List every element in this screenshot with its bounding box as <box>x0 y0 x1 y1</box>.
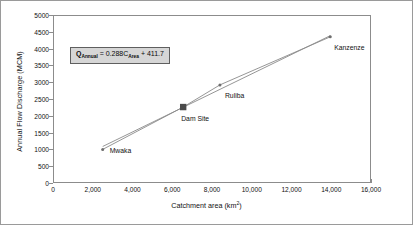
equation-mid: = 0.288C <box>98 50 129 57</box>
y-tick-label: 2500 <box>1 96 49 103</box>
data-point-label: Mwaka <box>110 147 132 154</box>
series-svg <box>54 16 372 184</box>
x-tick-label: 14,000 <box>321 186 341 193</box>
x-tick-label: 12,000 <box>281 186 301 193</box>
x-tick-label: 2,000 <box>84 186 101 193</box>
data-point-marker <box>329 35 332 38</box>
x-tick-label: 8,000 <box>204 186 221 193</box>
data-point-label: Kanzenze <box>334 44 364 51</box>
data-point-marker <box>218 83 221 86</box>
x-tick-label: 0 <box>51 186 55 193</box>
regression-equation-box: QAnnual = 0.288CArea + 411.7 <box>70 47 170 64</box>
x-tick-label: 16,000 <box>361 186 381 193</box>
data-point-label: Dam Site <box>181 115 209 122</box>
x-tick-label: 6,000 <box>164 186 181 193</box>
data-point-marker <box>101 148 104 151</box>
x-tick-label: 4,000 <box>124 186 141 193</box>
y-tick-mark <box>49 183 53 184</box>
y-tick-label: 500 <box>1 163 49 170</box>
y-tick-label: 3000 <box>1 79 49 86</box>
y-tick-label: 4500 <box>1 28 49 35</box>
y-tick-label: 2000 <box>1 112 49 119</box>
x-axis-label: Catchment area (km2) <box>1 200 412 210</box>
equation-tail: + 411.7 <box>139 50 164 57</box>
equation-q-subscript: Annual <box>81 54 97 59</box>
y-tick-label: 4000 <box>1 45 49 52</box>
y-tick-label: 0 <box>1 180 49 187</box>
equation-c-subscript: Area <box>128 54 139 59</box>
y-tick-label: 5000 <box>1 12 49 19</box>
y-tick-label: 1500 <box>1 129 49 136</box>
x-axis-label-base: Catchment area (km <box>171 201 236 210</box>
plot-area: MwakaDam SiteRulibaKanzenze QAnnual = 0.… <box>53 15 371 183</box>
y-tick-label: 1000 <box>1 146 49 153</box>
chart-figure: Annual Flow Discharge (MCM) 050010001500… <box>0 0 413 225</box>
data-point-label: Ruliba <box>225 92 244 99</box>
y-tick-label: 3500 <box>1 62 49 69</box>
x-axis-label-close: ) <box>239 201 241 210</box>
x-tick-label: 10,000 <box>242 186 262 193</box>
data-point-marker <box>180 104 186 110</box>
